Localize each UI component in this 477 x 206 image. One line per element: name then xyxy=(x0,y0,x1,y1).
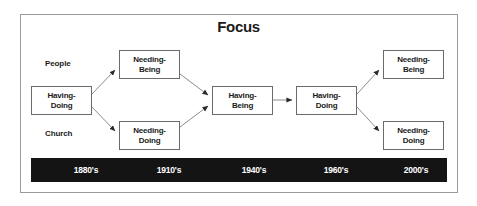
node-label-line1: Needing- xyxy=(397,126,430,136)
row-label-people: People xyxy=(45,59,71,68)
node-label-line2: Doing xyxy=(139,136,161,146)
row-label-church: Church xyxy=(45,129,72,138)
timeline-period-2000s: 2000's xyxy=(361,158,471,182)
diagram-canvas: Focus People Church Having- Doing Needin… xyxy=(0,0,477,206)
node-label-line1: Having- xyxy=(229,91,257,101)
node-label-line2: Doing xyxy=(316,101,338,111)
node-needing-doing-2[interactable]: Needing- Doing xyxy=(383,121,444,150)
node-label-line2: Being xyxy=(403,65,424,75)
node-label-line2: Being xyxy=(139,65,160,75)
node-having-doing-1[interactable]: Having- Doing xyxy=(31,86,92,115)
node-having-being[interactable]: Having- Being xyxy=(212,86,273,115)
node-needing-doing-1[interactable]: Needing- Doing xyxy=(119,121,180,150)
node-label-line2: Doing xyxy=(403,136,425,146)
node-label-line1: Needing- xyxy=(133,126,166,136)
timeline-bar: 1880's 1910's 1940's 1960's 2000's xyxy=(31,158,447,182)
node-having-doing-2[interactable]: Having- Doing xyxy=(296,86,357,115)
node-label-line1: Needing- xyxy=(133,55,166,65)
node-needing-being-2[interactable]: Needing- Being xyxy=(383,50,444,79)
node-label-line2: Being xyxy=(232,101,253,111)
node-label-line2: Doing xyxy=(51,101,73,111)
node-label-line1: Having- xyxy=(313,91,341,101)
node-label-line1: Needing- xyxy=(397,55,430,65)
page-title: Focus xyxy=(0,18,477,35)
node-needing-being-1[interactable]: Needing- Being xyxy=(119,50,180,79)
node-label-line1: Having- xyxy=(48,91,76,101)
